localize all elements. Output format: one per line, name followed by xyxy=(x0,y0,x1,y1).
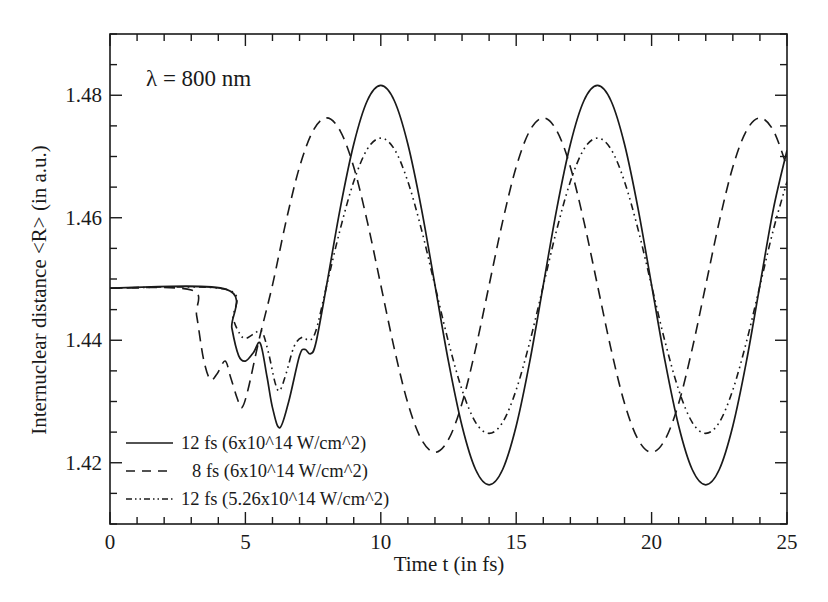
series-line-0 xyxy=(110,85,787,484)
legend-entry-2: 12 fs (5.26x10^14 W/cm^2) xyxy=(126,489,389,510)
line-chart: 05101520251.421.441.461.48 λ = 800 nm Ti… xyxy=(0,0,828,602)
x-tick-label: 25 xyxy=(777,530,798,554)
axis-tick-labels: 05101520251.421.441.461.48 xyxy=(65,83,797,554)
y-tick-label: 1.46 xyxy=(65,206,102,230)
x-tick-label: 15 xyxy=(506,530,527,554)
x-axis-label: Time t (in fs) xyxy=(394,552,505,576)
legend-label-0: 12 fs (6x10^14 W/cm^2) xyxy=(181,433,366,454)
legend-label-2: 12 fs (5.26x10^14 W/cm^2) xyxy=(181,489,389,510)
series-layer xyxy=(110,85,787,484)
legend-label-1: 8 fs (6x10^14 W/cm^2) xyxy=(192,461,368,482)
y-axis-label: Internuclear distance <R> (in a.u.) xyxy=(27,145,51,435)
y-tick-label: 1.48 xyxy=(65,83,102,107)
wavelength-annotation: λ = 800 nm xyxy=(146,66,251,91)
legend-entry-0: 12 fs (6x10^14 W/cm^2) xyxy=(126,433,366,454)
legend-entry-1: 8 fs (6x10^14 W/cm^2) xyxy=(126,461,368,482)
y-tick-label: 1.42 xyxy=(65,451,102,475)
series-line-2 xyxy=(110,138,787,433)
x-tick-label: 5 xyxy=(240,530,251,554)
x-tick-label: 10 xyxy=(370,530,391,554)
y-tick-label: 1.44 xyxy=(65,328,102,352)
series-line-1 xyxy=(110,118,787,452)
legend: 12 fs (6x10^14 W/cm^2) 8 fs (6x10^14 W/c… xyxy=(126,433,389,510)
x-tick-label: 20 xyxy=(641,530,662,554)
x-tick-label: 0 xyxy=(105,530,116,554)
